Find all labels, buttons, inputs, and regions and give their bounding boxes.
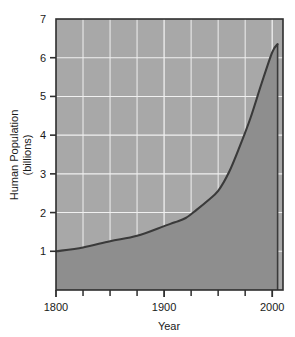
x-axis-tick-labels: 180019002000 [44, 301, 285, 313]
x-tick-label-1900: 1900 [152, 301, 176, 313]
y-tick-label-1: 1 [40, 245, 46, 257]
y-tick-label-5: 5 [40, 90, 46, 102]
x-axis-major-ticks [56, 290, 272, 297]
x-axis-title: Year [158, 320, 181, 332]
y-axis-title-line2: (billions) [21, 135, 33, 176]
y-tick-label-4: 4 [40, 129, 46, 141]
chart-canvas: 1234567 180019002000 Year Human Populati… [0, 0, 295, 337]
human-population-chart: 1234567 180019002000 Year Human Populati… [0, 0, 295, 337]
y-axis-title-line1: Human Population [8, 110, 20, 201]
y-tick-label-3: 3 [40, 168, 46, 180]
y-tick-label-2: 2 [40, 207, 46, 219]
y-tick-label-6: 6 [40, 52, 46, 64]
x-tick-label-2000: 2000 [260, 301, 284, 313]
x-tick-label-1800: 1800 [44, 301, 68, 313]
y-axis-tick-labels: 1234567 [40, 13, 46, 257]
y-tick-label-7: 7 [40, 13, 46, 25]
y-axis-ticks [50, 58, 56, 252]
